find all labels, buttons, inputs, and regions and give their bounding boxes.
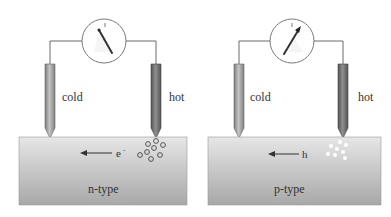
- material-label-n-type: n-type: [88, 182, 119, 196]
- wire-left: [239, 41, 270, 64]
- cold-label: cold: [62, 90, 83, 104]
- n-type-panel: cold hot e - n-type: [19, 19, 187, 205]
- cold-probe-icon: [45, 64, 55, 138]
- cold-probe-icon: [234, 64, 244, 138]
- voltmeter: [82, 19, 126, 63]
- wire-right: [314, 41, 343, 64]
- wire-left: [50, 41, 82, 64]
- carrier-label-electron: e: [116, 147, 121, 159]
- carrier-label-hole: h: [302, 148, 308, 160]
- needle-pivot: [98, 29, 101, 32]
- hot-probe-diagram: cold hot e - n-type: [0, 0, 391, 217]
- hot-label: hot: [358, 90, 374, 104]
- meter-dial-icon: [82, 19, 126, 63]
- p-type-panel: cold hot h p-type: [208, 19, 381, 205]
- hot-label: hot: [169, 90, 185, 104]
- cold-label: cold: [250, 90, 271, 104]
- voltmeter: [270, 19, 314, 63]
- material-label-p-type: p-type: [274, 182, 305, 196]
- hot-probe-icon: [338, 64, 348, 138]
- hot-probe-icon: [151, 64, 161, 138]
- wire-right: [126, 41, 156, 64]
